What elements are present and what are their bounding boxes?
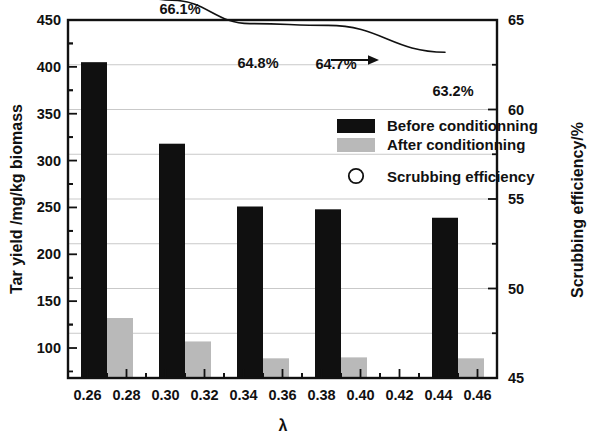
- y-axis-right-title: Scrubbing efficiency/%: [569, 122, 586, 298]
- y-axis-left-title: Tar yield /mg/kg biomass: [8, 104, 25, 294]
- x-tick-0.26: 0.26: [73, 387, 101, 403]
- legend-swatch-after: [337, 138, 375, 152]
- bar-after-0.27: [107, 318, 133, 378]
- legend-label-before: Before conditionning: [387, 117, 538, 134]
- bar-before-0.27: [81, 62, 107, 378]
- x-axis-title: λ: [279, 417, 288, 434]
- x-tick-0.40: 0.40: [346, 387, 374, 403]
- y-left-tick-100: 100: [37, 340, 61, 356]
- annotation-66.1%: 66.1%: [159, 1, 200, 17]
- x-tick-0.36: 0.36: [268, 387, 296, 403]
- x-tick-0.34: 0.34: [229, 387, 257, 403]
- bar-before-0.31: [159, 144, 185, 378]
- annotation-64.7%: 64.7%: [315, 56, 356, 72]
- legend-label-after: After conditionning: [387, 136, 525, 153]
- chart-svg: 67.3%66.1%64.8%64.7%63.2% 10015020025030…: [0, 0, 603, 436]
- y-left-tick-400: 400: [37, 59, 61, 75]
- bar-before-0.35: [237, 206, 263, 378]
- x-tick-0.38: 0.38: [307, 387, 335, 403]
- annotation-64.8%: 64.8%: [237, 55, 278, 71]
- y-right-tick-50: 50: [508, 281, 524, 297]
- bar-after-0.31: [185, 341, 211, 378]
- x-tick-0.28: 0.28: [112, 387, 140, 403]
- x-tick-0.30: 0.30: [151, 387, 179, 403]
- x-tick-0.42: 0.42: [385, 387, 413, 403]
- x-axis-tick-labels: 0.260.280.300.320.340.360.380.400.420.44…: [73, 387, 491, 403]
- bar-after-0.45: [458, 358, 484, 378]
- y-right-tick-60: 60: [508, 102, 524, 118]
- y-left-tick-450: 450: [37, 12, 61, 28]
- y-left-tick-300: 300: [37, 153, 61, 169]
- bar-after-0.39: [341, 357, 367, 378]
- y-right-tick-65: 65: [508, 12, 524, 28]
- x-tick-0.44: 0.44: [424, 387, 452, 403]
- y-right-tick-55: 55: [508, 191, 524, 207]
- bar-after-0.35: [263, 358, 289, 378]
- chart-figure: 67.3%66.1%64.8%64.7%63.2% 10015020025030…: [0, 0, 603, 436]
- y-left-tick-200: 200: [37, 246, 61, 262]
- bar-before-0.45: [432, 218, 458, 378]
- annotation-63.2%: 63.2%: [432, 83, 473, 99]
- y-left-tick-150: 150: [37, 293, 61, 309]
- bar-before-0.39: [315, 209, 341, 378]
- y-left-tick-350: 350: [37, 106, 61, 122]
- legend-swatch-before: [337, 119, 375, 133]
- y-left-tick-250: 250: [37, 199, 61, 215]
- x-tick-0.46: 0.46: [463, 387, 491, 403]
- y-right-tick-45: 45: [508, 370, 524, 386]
- legend-label-scrubbing-efficiency: Scrubbing efficiency: [387, 168, 535, 185]
- x-tick-0.32: 0.32: [190, 387, 218, 403]
